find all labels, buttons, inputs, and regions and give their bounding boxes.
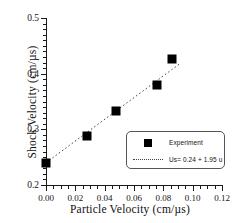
data-point-marker (42, 158, 51, 167)
x-tick-major (193, 185, 194, 191)
x-tick-label: 0.06 (126, 193, 142, 203)
x-tick-minor (207, 185, 208, 189)
x-tick-minor (68, 185, 69, 189)
x-tick-major (105, 185, 106, 191)
x-tick-minor (90, 185, 91, 189)
x-axis-title: Particle Velocity (cm/µs) (30, 203, 230, 215)
x-tick-major (222, 185, 223, 191)
x-tick-minor (171, 185, 172, 189)
x-tick-label: 0.12 (214, 193, 230, 203)
x-tick-minor (127, 185, 128, 189)
x-tick-label: 0.10 (185, 193, 201, 203)
x-tick-minor (178, 185, 179, 189)
legend-item-fit: Us= 0.24 + 1.95 u (127, 151, 224, 168)
x-tick-major (46, 185, 47, 191)
x-tick-minor (156, 185, 157, 189)
legend-label-experiment: Experiment (169, 139, 203, 146)
x-tick-minor (112, 185, 113, 189)
x-tick-minor (185, 185, 186, 189)
x-tick-label: 0.02 (67, 193, 83, 203)
y-tick-label: 0.4 (27, 69, 39, 79)
data-point-marker (112, 106, 121, 115)
x-tick-minor (83, 185, 84, 189)
x-tick-minor (61, 185, 62, 189)
x-tick-minor (149, 185, 150, 189)
y-tick-label: 0.2 (27, 180, 39, 190)
y-tick-label: 0.5 (27, 13, 39, 23)
x-tick-major (163, 185, 164, 191)
x-tick-minor (53, 185, 54, 189)
shock-velocity-chart: Shock Velocity (cm/µs) Particle Velocity… (0, 0, 236, 223)
x-tick-minor (119, 185, 120, 189)
chart-legend: Experiment Us= 0.24 + 1.95 u (126, 131, 225, 169)
data-point-marker (153, 80, 162, 89)
legend-square-marker-icon (127, 139, 169, 147)
x-tick-minor (215, 185, 216, 189)
legend-dotted-line-icon (127, 159, 169, 161)
x-tick-major (134, 185, 135, 191)
x-tick-minor (97, 185, 98, 189)
y-tick-label: 0.3 (27, 124, 39, 134)
legend-item-experiment: Experiment (127, 134, 224, 151)
x-tick-label: 0.04 (97, 193, 113, 203)
data-point-marker (168, 54, 177, 63)
y-axis-title: Shock Velocity (cm/µs) (26, 12, 38, 192)
x-tick-major (75, 185, 76, 191)
x-tick-label: 0.08 (155, 193, 171, 203)
legend-label-fit-equation: Us= 0.24 + 1.95 u (169, 156, 222, 163)
data-point-marker (83, 132, 92, 141)
x-tick-minor (200, 185, 201, 189)
x-tick-minor (141, 185, 142, 189)
x-tick-label: 0.00 (38, 193, 54, 203)
